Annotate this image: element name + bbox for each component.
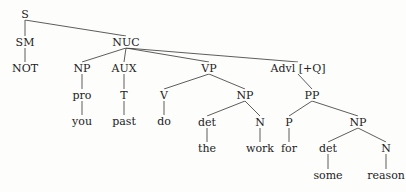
tree-node-v: V xyxy=(159,90,169,101)
tree-node-do: do xyxy=(156,116,172,127)
tree-node-the: the xyxy=(197,143,217,154)
tree-node-not: NOT xyxy=(11,63,39,74)
tree-node-p: P xyxy=(284,117,293,128)
tree-edge xyxy=(245,101,260,116)
tree-edge xyxy=(164,74,209,89)
tree-node-past: past xyxy=(111,116,137,127)
tree-edges xyxy=(0,0,406,192)
tree-node-sm: SM xyxy=(15,37,36,48)
tree-edge xyxy=(209,74,245,89)
tree-edge xyxy=(207,101,245,116)
tree-edge xyxy=(25,20,126,36)
tree-node-det2: det xyxy=(318,143,338,154)
tree-node-pp: PP xyxy=(304,90,321,101)
tree-edge xyxy=(298,74,312,89)
tree-node-det1: det xyxy=(197,117,217,128)
tree-node-vp: VP xyxy=(200,63,217,74)
tree-node-n1: N xyxy=(254,117,266,128)
tree-edge xyxy=(126,48,209,62)
tree-edge xyxy=(82,48,126,62)
tree-edge xyxy=(358,128,386,142)
tree-node-nuc: NUC xyxy=(111,37,140,48)
tree-edge xyxy=(289,101,312,116)
tree-node-reason: reason xyxy=(366,170,406,181)
tree-node-aux: AUX xyxy=(110,63,137,74)
tree-node-some: some xyxy=(312,170,343,181)
tree-node-you: you xyxy=(71,116,93,127)
tree-node-pro: pro xyxy=(72,90,93,101)
tree-node-for: for xyxy=(280,143,298,154)
tree-node-np1: NP xyxy=(72,63,91,74)
tree-node-n2: N xyxy=(380,143,392,154)
tree-node-s: S xyxy=(20,9,30,20)
tree-node-np2: NP xyxy=(235,90,254,101)
tree-edge xyxy=(328,128,358,142)
tree-edge xyxy=(312,101,358,116)
tree-node-np3: NP xyxy=(348,117,367,128)
tree-node-advl: Advl [+Q] xyxy=(269,63,326,74)
tree-node-work: work xyxy=(245,143,275,154)
tree-edge xyxy=(126,48,298,62)
tree-node-t: T xyxy=(119,90,128,101)
tree-edge xyxy=(124,48,126,62)
